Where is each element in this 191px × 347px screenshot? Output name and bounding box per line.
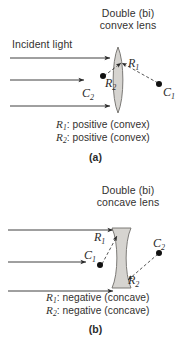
panel-b-double-concave: Double (bi) concave lens R1 R2 C1 C2 R1:… [0, 174, 191, 347]
panel-a-label-c2-sub: 2 [90, 93, 94, 102]
panel-b-caption-line2-text: : negative (concave) [57, 305, 150, 316]
panel-b-center-c1-dot [97, 262, 103, 268]
panel-a-label-c1-symbol: C [163, 85, 171, 99]
panel-a-caption-line1: R1: positive (convex) [56, 118, 150, 130]
panel-a-caption-line2-symbol: R [56, 131, 63, 143]
panel-b-caption-line1-symbol: R [46, 291, 53, 303]
panel-b-label-r1: R1 [94, 231, 105, 244]
panel-a-label-r1-sub: 1 [135, 63, 139, 72]
panel-a-title-line2: convex lens [72, 20, 184, 31]
panel-b-title-line2: concave lens [72, 197, 184, 208]
panel-a-caption-line2-text: : positive (convex) [67, 132, 150, 143]
panel-b-label-r2-sub: 2 [135, 280, 139, 289]
panel-b-label-c1: C1 [84, 249, 96, 262]
panel-a-incident-rays [10, 58, 110, 106]
panel-a-caption-line1-symbol: R [56, 118, 63, 130]
panel-a-title-line1: Double (bi) [72, 8, 184, 19]
panel-a-label-c2: C2 [82, 87, 94, 100]
panel-a-center-c1-dot [156, 81, 162, 87]
panel-b-label-r2: R2 [128, 274, 139, 287]
panel-b-caption-line2-symbol: R [46, 304, 53, 316]
panel-a-caption-line1-text: : positive (convex) [67, 119, 150, 130]
panel-a-letter: (a) [0, 152, 191, 163]
panel-b-caption-line2-sub: 2 [53, 309, 57, 318]
panel-b-title-line1: Double (bi) [72, 185, 184, 196]
panel-a-incident-light-label: Incident light [12, 39, 72, 50]
panel-a-label-r2-sub: 2 [112, 83, 116, 92]
panel-b-caption-line1: R1: negative (concave) [46, 291, 150, 303]
panel-a-label-r1: R1 [128, 57, 139, 70]
panel-b-label-c2-symbol: C [153, 236, 161, 250]
panel-a-label-c2-symbol: C [82, 86, 90, 100]
panel-b-label-c2-sub: 2 [161, 243, 165, 252]
panel-a-label-c1: C1 [163, 86, 175, 99]
panel-b-caption-line1-text: : negative (concave) [57, 292, 150, 303]
panel-b-label-r1-sub: 1 [101, 237, 105, 246]
panel-b-letter: (b) [0, 324, 191, 335]
panel-a-caption-line2: R2: positive (convex) [56, 131, 150, 143]
lens-sign-convention-figure: Double (bi) convex lens Incident light R… [0, 0, 191, 347]
panel-b-label-c1-sub: 1 [92, 255, 96, 264]
panel-a-label-r2: R2 [105, 77, 116, 90]
panel-a-double-convex: Double (bi) convex lens Incident light R… [0, 0, 191, 174]
panel-a-caption-line2-sub: 2 [63, 136, 67, 145]
panel-b-label-c1-symbol: C [84, 248, 92, 262]
panel-a-label-c1-sub: 1 [171, 92, 175, 101]
panel-b-caption-line2: R2: negative (concave) [46, 304, 150, 316]
panel-b-label-c2: C2 [153, 237, 165, 250]
